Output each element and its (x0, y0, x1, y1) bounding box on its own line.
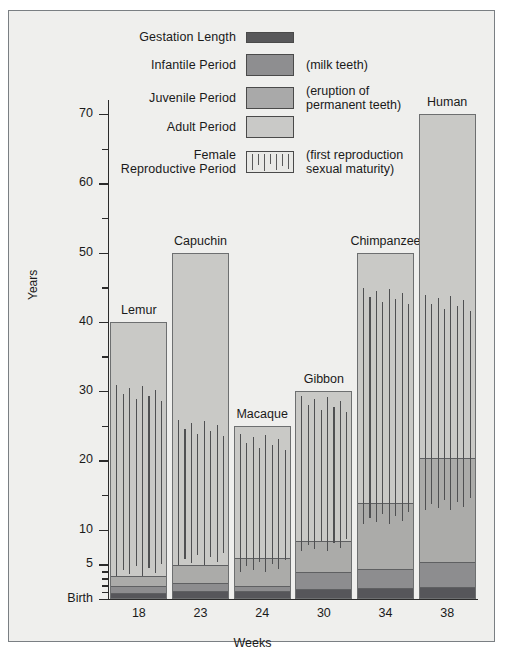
legend-swatch-juvenile (246, 87, 294, 109)
segment-adult (111, 323, 166, 598)
x-tick-label: 24 (232, 606, 292, 620)
segment-gestation (173, 591, 228, 598)
segment-gestation (358, 588, 413, 598)
y-tick-label: Birth (33, 591, 93, 605)
y-tick-minor (102, 571, 109, 572)
y-tick-label: 20 (33, 452, 93, 466)
x-tick-label: 18 (109, 606, 169, 620)
y-axis-title: Years (26, 270, 40, 300)
legend-label-infantile: Infantile Period (118, 58, 246, 72)
y-tick-minor (102, 218, 109, 219)
legend-item-adult: Adult Period (118, 116, 306, 138)
y-tick-minor (102, 495, 109, 496)
y-tick-label: 10 (33, 522, 93, 536)
y-tick-minor (102, 585, 109, 586)
legend-swatch-reproductive (246, 151, 294, 173)
segment-gestation (296, 589, 351, 598)
segment-gestation (111, 593, 166, 598)
y-tick-major (99, 460, 109, 461)
bar-capuchin (172, 253, 229, 600)
x-tick-label: 38 (417, 606, 477, 620)
segment-gestation (235, 591, 290, 598)
y-tick-major (99, 183, 109, 184)
y-tick-minor (102, 426, 109, 427)
y-tick-major (99, 114, 109, 115)
bar-label-chimpanzee: Chimpanzee (345, 234, 427, 248)
y-tick-minor (102, 592, 109, 593)
legend-note-reproductive: (first reproduction sexual maturity) (294, 148, 403, 176)
legend-note-infantile: (milk teeth) (294, 58, 368, 72)
legend-swatch-gestation (246, 32, 294, 43)
y-tick-major (99, 564, 109, 565)
bar-macaque (234, 426, 291, 599)
x-axis-title: Weeks (0, 636, 505, 650)
x-axis-line (108, 599, 478, 600)
y-tick-major (99, 322, 109, 323)
legend-swatch-adult (246, 116, 294, 138)
legend-item-reproductive: Female Reproductive Period (first reprod… (118, 148, 403, 176)
bar-label-human: Human (406, 95, 488, 109)
y-tick-minor (102, 287, 109, 288)
legend-item-infantile: Infantile Period (milk teeth) (118, 54, 368, 76)
y-tick-label: 60 (33, 175, 93, 189)
chart-page: Gestation Length Infantile Period (milk … (0, 0, 505, 666)
plot-area: Gestation Length Infantile Period (milk … (0, 0, 505, 666)
y-tick-label: 5 (33, 556, 93, 570)
bar-chimpanzee (357, 253, 414, 600)
bar-human (419, 114, 476, 599)
legend-swatch-infantile (246, 54, 294, 76)
y-axis-line (108, 100, 109, 600)
segment-gestation (420, 587, 475, 598)
y-tick-label: 30 (33, 383, 93, 397)
bar-label-macaque: Macaque (221, 407, 303, 421)
y-tick-label: 40 (33, 314, 93, 328)
bar-lemur (110, 322, 167, 599)
y-tick-minor (102, 356, 109, 357)
legend-note-juvenile: (eruption of permanent teeth) (294, 84, 401, 112)
x-tick-label: 34 (356, 606, 416, 620)
legend-label-reproductive: Female Reproductive Period (118, 148, 246, 176)
y-tick-minor (102, 578, 109, 579)
y-tick-major (99, 530, 109, 531)
legend-label-adult: Adult Period (118, 120, 246, 134)
y-tick-major (99, 599, 109, 600)
bar-label-capuchin: Capuchin (160, 234, 242, 248)
x-tick-label: 23 (171, 606, 231, 620)
y-tick-label: 70 (33, 106, 93, 120)
y-tick-minor (102, 149, 109, 150)
legend-item-gestation: Gestation Length (118, 30, 306, 44)
legend-label-juvenile: Juvenile Period (118, 91, 246, 105)
y-tick-major (99, 391, 109, 392)
bar-label-gibbon: Gibbon (283, 372, 365, 386)
y-tick-label: 50 (33, 245, 93, 259)
legend-label-gestation: Gestation Length (118, 30, 246, 44)
segment-adult (173, 254, 228, 599)
x-tick-label: 30 (294, 606, 354, 620)
bar-label-lemur: Lemur (98, 303, 180, 317)
legend-item-juvenile: Juvenile Period (eruption of permanent t… (118, 84, 401, 112)
y-tick-major (99, 253, 109, 254)
bar-gibbon (295, 391, 352, 599)
